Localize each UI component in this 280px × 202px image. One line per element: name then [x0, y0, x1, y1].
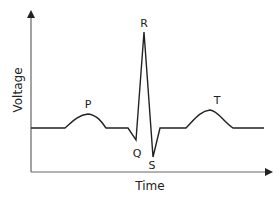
label-s: S [149, 159, 156, 172]
label-q: Q [133, 147, 142, 160]
ecg-diagram: P Q R S T Time Voltage [0, 0, 280, 202]
y-axis-label: Voltage [11, 67, 25, 112]
label-r: R [140, 17, 148, 30]
ecg-trace [31, 32, 264, 157]
x-axis-label: Time [134, 179, 164, 193]
label-t: T [213, 94, 221, 107]
label-p: P [85, 98, 92, 111]
